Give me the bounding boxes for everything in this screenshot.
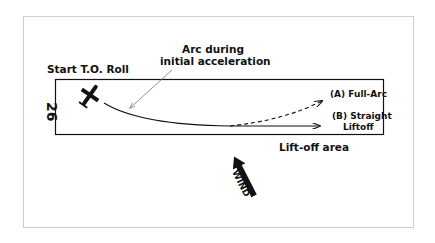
arc-pointer-line [130, 70, 172, 108]
start-roll-label: Start T.O. Roll [47, 63, 129, 75]
liftoff-area-label: Lift-off area [279, 141, 349, 153]
straight-label-line2: Liftoff [343, 121, 374, 133]
runway-number: 26 [46, 102, 58, 121]
full-arc-label: (A) Full-Arc [330, 88, 387, 100]
full-arc-arrow [230, 101, 322, 126]
initial-arc-path [104, 103, 230, 126]
arc-label-line1: Arc during [182, 43, 244, 55]
airplane-icon [74, 79, 105, 111]
arc-label-line2: initial acceleration [160, 55, 271, 67]
